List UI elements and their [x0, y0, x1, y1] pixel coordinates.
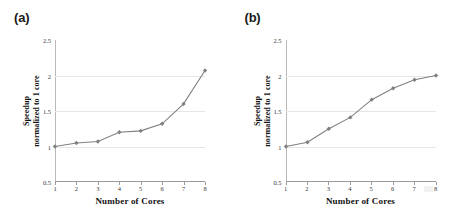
- series-line-b: [286, 40, 436, 182]
- x-tick-label: 3: [96, 185, 99, 192]
- y-axis-title-b-line1: Speedup: [252, 96, 261, 126]
- panel-a: (a) 0.511.522.5 12345678 Number of Cores…: [0, 0, 226, 221]
- data-point-marker: [74, 141, 78, 145]
- x-tick-label: 7: [412, 185, 415, 192]
- data-point-marker: [283, 144, 287, 148]
- x-tick-label: 4: [118, 185, 121, 192]
- y-axis-title-a-line2: normalized to 1 core: [32, 75, 41, 146]
- x-tick-label: 2: [75, 185, 78, 192]
- x-tick-label: 6: [391, 185, 394, 192]
- x-tick-label: 5: [139, 185, 142, 192]
- x-tick-label: 6: [161, 185, 164, 192]
- x-tick-label: 8: [203, 185, 206, 192]
- data-point-marker: [433, 73, 437, 77]
- x-axis-title-b: Number of Cores: [286, 196, 436, 206]
- x-tick-label: 7: [182, 185, 185, 192]
- x-tick-label: 1: [53, 185, 56, 192]
- data-point-marker: [117, 130, 121, 134]
- data-point-marker: [390, 86, 394, 90]
- panel-label-b: (b): [245, 10, 261, 25]
- x-axis-title-a: Number of Cores: [55, 196, 205, 206]
- x-tick-label: 2: [305, 185, 308, 192]
- x-tick-label: 4: [348, 185, 351, 192]
- y-axis-title-a: Speedup normalized to 1 core: [14, 40, 50, 182]
- data-point-marker: [96, 139, 100, 143]
- x-tick-label: 3: [327, 185, 330, 192]
- data-point-marker: [139, 129, 143, 133]
- x-tick-label: 5: [370, 185, 373, 192]
- data-polyline: [286, 76, 436, 147]
- series-line-a: [55, 40, 205, 182]
- plot-area-a: 0.511.522.5 12345678: [55, 40, 205, 182]
- panel-b: (b) 0.511.522.5 12345678 Number of Cores…: [226, 0, 451, 221]
- data-point-marker: [53, 144, 57, 148]
- x-tick-label: 8: [434, 185, 437, 192]
- plot-area-b: 0.511.522.5 12345678: [286, 40, 436, 182]
- x-tick-label: 1: [284, 185, 287, 192]
- panel-label-a: (a): [14, 10, 29, 25]
- data-polyline: [55, 71, 205, 147]
- data-point-marker: [412, 78, 416, 82]
- y-axis-title-b-line2: normalized to 1 core: [263, 75, 272, 146]
- y-axis-title-b: Speedup normalized to 1 core: [245, 40, 281, 182]
- y-axis-title-a-line1: Speedup: [22, 96, 31, 126]
- figure-container: (a) 0.511.522.5 12345678 Number of Cores…: [0, 0, 451, 221]
